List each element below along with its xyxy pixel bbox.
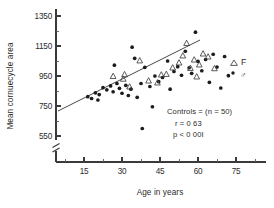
data-point-female (122, 71, 128, 76)
data-point-male (120, 91, 124, 95)
data-point-male (194, 30, 198, 34)
data-point-male (96, 98, 100, 102)
data-point-male (183, 49, 187, 53)
legend-dot-icon (231, 71, 234, 74)
data-point-male (135, 95, 139, 99)
data-point-male (151, 105, 155, 109)
annotation-controls: Controls = (n = 50) (167, 107, 233, 116)
data-point-female (110, 73, 116, 78)
legend: F ♂ (231, 57, 247, 80)
data-point-male (211, 52, 215, 56)
data-point-male (140, 127, 144, 131)
data-point-female (176, 60, 182, 65)
data-point-male (101, 86, 105, 90)
y-tick-label: 1350 (35, 12, 53, 21)
data-point-male (86, 95, 90, 99)
y-tick-label: 550 (39, 132, 53, 141)
data-point-male (105, 88, 109, 92)
data-point-male (208, 80, 212, 84)
data-point-male (153, 74, 157, 78)
data-point-female (200, 51, 206, 56)
data-point-female (191, 57, 197, 62)
data-point-male (115, 82, 119, 86)
data-point-male (139, 82, 143, 86)
data-point-male (97, 93, 101, 97)
data-point-female (137, 58, 143, 63)
x-tick-marks (65, 157, 255, 162)
x-tick-label: 30 (118, 167, 127, 176)
data-point-male (124, 83, 128, 87)
data-point-male (109, 84, 113, 88)
data-point-male (219, 86, 223, 90)
data-point-male (118, 86, 122, 90)
axes-group (53, 9, 267, 162)
y-tick-marks (56, 16, 61, 136)
plot-canvas: 1350 1150 950 750 550 15 30 45 60 (0, 0, 274, 208)
x-tick-labels: 15 30 45 60 75 (80, 167, 241, 176)
data-point-male (130, 45, 134, 49)
data-point-male (180, 73, 184, 77)
y-axis-break-icon (53, 144, 60, 153)
data-point-male (94, 91, 98, 95)
female-data-points (110, 40, 217, 89)
x-tick-label: 45 (156, 167, 165, 176)
y-tick-label: 750 (39, 102, 53, 111)
data-point-female (170, 65, 176, 70)
data-point-male (111, 90, 115, 94)
statistics-annotation: Controls = (n = 50) r = 0 63 p < 0 00I (167, 107, 233, 139)
data-point-male (113, 63, 117, 67)
data-point-female (180, 53, 186, 58)
data-point-male (223, 55, 227, 59)
legend-triangle-icon (231, 60, 238, 65)
annotation-r-value: r = 0 63 (175, 119, 202, 128)
data-point-male (90, 97, 94, 101)
x-tick-label: 75 (232, 167, 241, 176)
data-point-female (184, 40, 190, 45)
y-tick-labels: 1350 1150 950 750 550 (35, 12, 53, 141)
x-axis-title: Age in years (137, 188, 184, 197)
data-point-female (163, 71, 169, 76)
data-point-male (133, 56, 137, 60)
legend-label-female: F (241, 57, 246, 67)
annotation-p-value: p < 0 00I (173, 130, 204, 139)
legend-label-male: ♂ (240, 70, 246, 80)
data-point-male (126, 94, 130, 98)
data-point-male (227, 74, 231, 78)
data-point-male (166, 59, 170, 63)
x-tick-label: 60 (194, 167, 203, 176)
data-point-female (194, 74, 200, 79)
data-point-male (200, 69, 204, 73)
regression-line (58, 40, 200, 111)
data-point-male (143, 65, 147, 69)
data-point-male (190, 71, 194, 75)
y-tick-label: 950 (39, 72, 53, 81)
data-point-male (168, 87, 172, 91)
x-tick-label: 15 (80, 167, 89, 176)
y-axis-title: Mean cornuecycle area (6, 42, 15, 130)
data-point-female (146, 78, 152, 83)
data-point-male (148, 85, 152, 89)
y-tick-label: 1150 (35, 42, 52, 51)
scatter-plot-figure: 1350 1150 950 750 550 15 30 45 60 (0, 0, 274, 208)
